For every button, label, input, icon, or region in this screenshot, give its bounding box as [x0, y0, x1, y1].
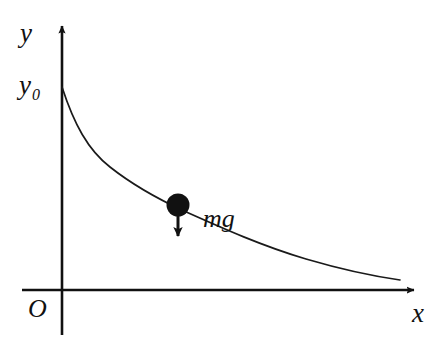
x-axis-label: x	[412, 300, 424, 327]
trajectory-curve	[62, 87, 400, 280]
y-axis-label: y	[20, 20, 32, 47]
initial-height-subscript: 0	[31, 86, 40, 103]
diagram-canvas	[0, 0, 447, 344]
origin-label: O	[28, 296, 47, 322]
mass-particle	[167, 194, 190, 217]
force-label-mg: mg	[203, 206, 235, 232]
physics-diagram-figure: y x y0 O mg	[0, 0, 447, 344]
initial-height-label: y0	[19, 72, 40, 103]
initial-height-symbol: y	[19, 70, 31, 100]
